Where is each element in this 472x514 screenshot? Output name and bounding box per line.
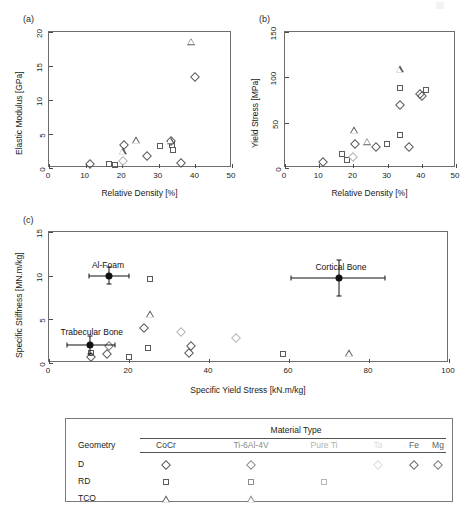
scientific-figure: (a) Elastic Modulus [GPa] Relative Densi… (0, 0, 472, 514)
y-axis-tick (285, 32, 289, 33)
y-axis-tick (49, 100, 53, 101)
legend-row-label-rd: RD (78, 476, 90, 486)
error-bar-cap (107, 284, 112, 285)
x-axis-tick-label: 50 (227, 171, 236, 180)
error-bar-cap (67, 343, 68, 348)
panel-c-x-axis-label: Specific Yield Stress [kN.m/kg] (48, 385, 448, 395)
legend-row-label-d: D (78, 459, 84, 469)
x-axis-tick (86, 164, 87, 168)
data-point-diamond (119, 140, 129, 150)
y-axis-tick (285, 77, 289, 78)
legend-column-header-ti-6al-4v: Ti-6Al-4V (233, 440, 268, 450)
panel-b-x-axis-label: Relative Density [%] (284, 188, 455, 198)
legend-marker-tco-cocr (162, 495, 170, 502)
data-point-square (157, 143, 163, 149)
legend-group-header: Material Type (271, 425, 322, 435)
error-bar-cap (89, 273, 90, 278)
reference-data-point (106, 272, 113, 279)
legend-marker-d-ti-6al-4v (246, 460, 256, 470)
x-axis-tick (369, 359, 370, 363)
y-axis-tick (285, 123, 289, 124)
panel-c-plot-frame: Al-FoamTrabecular BoneCortical Bone (48, 231, 448, 362)
legend-marker-d-fe (409, 460, 419, 470)
y-axis-tick-label: 0 (258, 158, 280, 176)
legend-row-label-tco: TCO (78, 493, 96, 503)
panel-a-x-axis-label: Relative Density [%] (48, 188, 231, 198)
legend-column-header-ta: Ta (374, 440, 383, 450)
data-point-triangle (167, 137, 175, 144)
error-bar-cap (87, 354, 92, 355)
x-axis-tick-label: 80 (364, 366, 373, 375)
x-axis-tick-label: 10 (80, 171, 89, 180)
data-point-triangle (187, 38, 195, 45)
legend-column-header-fe: Fe (409, 440, 419, 450)
data-point-triangle (396, 65, 404, 72)
data-point-diamond (404, 142, 414, 152)
data-point-diamond (231, 333, 241, 343)
data-point-square (145, 345, 151, 351)
legend-marker-rd-cocr (163, 479, 169, 485)
legend-marker-d-ta (373, 460, 383, 470)
data-point-square (280, 351, 286, 357)
data-point-square (397, 85, 403, 91)
y-axis-tick-label: 10 (22, 90, 44, 108)
panel-b-plot-area (285, 32, 454, 166)
reference-point-label: Cortical Bone (315, 262, 366, 272)
x-axis-tick (129, 359, 130, 363)
x-axis-tick-label: 0 (282, 171, 286, 180)
legend-table: Material TypeGeometryCoCrTi-6Al-4VPure T… (65, 418, 453, 502)
data-point-diamond (176, 327, 186, 337)
y-axis-tick-label: 20 (22, 22, 44, 40)
x-axis-tick-label: 100 (441, 366, 454, 375)
x-axis-tick (422, 164, 423, 168)
y-axis-tick-label: 50 (258, 113, 280, 131)
x-axis-tick-label: 60 (284, 366, 293, 375)
data-point-diamond (102, 349, 112, 359)
x-axis-tick-label: 40 (204, 366, 213, 375)
reference-data-point (86, 342, 93, 349)
data-point-diamond (166, 137, 176, 147)
legend-marker-d-cocr (161, 460, 171, 470)
y-axis-tick-label: 0 (22, 158, 44, 176)
data-point-diamond (418, 91, 428, 101)
x-axis-tick (209, 359, 210, 363)
x-axis-tick (122, 164, 123, 168)
data-point-diamond (348, 152, 358, 162)
panel-b-plot-frame (284, 31, 455, 167)
data-point-square (147, 276, 153, 282)
error-bar-cap (385, 276, 386, 281)
data-point-diamond (184, 348, 194, 358)
panel-c-plot-area: Al-FoamTrabecular BoneCortical Bone (49, 232, 447, 361)
x-axis-tick-label: 50 (451, 171, 460, 180)
legend-column-header-pure-ti: Pure Ti (311, 440, 338, 450)
reference-point-label: Trabecular Bone (61, 327, 124, 337)
data-point-diamond (186, 341, 196, 351)
legend-row-header: Geometry (78, 440, 115, 450)
x-axis-tick-label: 40 (416, 171, 425, 180)
panel-c: (c) Al-FoamTrabecular BoneCortical Bone … (0, 205, 472, 395)
y-axis-tick-label: 0 (22, 353, 44, 371)
x-axis-tick (319, 164, 320, 168)
data-point-triangle (146, 310, 154, 317)
data-point-diamond (142, 151, 152, 161)
y-axis-tick-label: 150 (258, 22, 280, 40)
error-bar-cap (291, 276, 292, 281)
data-point-diamond (395, 100, 405, 110)
error-bar-cap (129, 273, 130, 278)
data-point-square (423, 87, 429, 93)
x-axis-tick (195, 164, 196, 168)
x-axis-tick (456, 164, 457, 168)
y-axis-tick (49, 168, 53, 169)
y-axis-tick (49, 319, 53, 320)
data-point-diamond (350, 139, 360, 149)
x-axis-tick-label: 40 (190, 171, 199, 180)
data-point-diamond (190, 72, 200, 82)
data-point-square (397, 132, 403, 138)
data-point-square (106, 161, 112, 167)
y-axis-tick-label: 100 (258, 67, 280, 85)
data-point-triangle (363, 138, 371, 145)
y-axis-tick (49, 363, 53, 364)
data-point-square (170, 147, 176, 153)
data-point-diamond (176, 158, 186, 168)
legend-marker-tco-ti-6al-4v (247, 495, 255, 502)
